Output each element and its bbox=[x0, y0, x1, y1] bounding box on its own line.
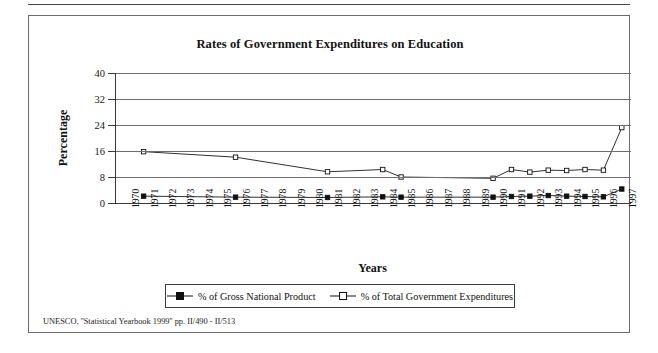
data-point-marker bbox=[528, 194, 532, 198]
y-axis-tick-label: 0 bbox=[100, 198, 105, 209]
y-axis-tick-label: 16 bbox=[95, 146, 106, 157]
data-point-marker bbox=[509, 194, 513, 198]
x-axis-tick-label: 1980 bbox=[314, 189, 325, 208]
gridline bbox=[116, 125, 631, 126]
x-axis-tick-label: 1978 bbox=[277, 189, 288, 208]
y-axis-tick bbox=[108, 151, 116, 152]
x-axis-tick-label: 1974 bbox=[203, 189, 214, 208]
x-axis-tick-label: 1986 bbox=[424, 189, 435, 208]
x-axis-tick-label: 1987 bbox=[442, 189, 453, 208]
data-point-marker bbox=[325, 170, 329, 174]
y-axis-tick bbox=[108, 99, 116, 100]
x-axis-tick-label: 1977 bbox=[259, 189, 270, 208]
x-axis-tick-label: 1994 bbox=[571, 189, 582, 208]
legend-filled-square-icon bbox=[167, 291, 193, 301]
data-point-marker bbox=[381, 167, 385, 171]
x-axis-tick-label: 1976 bbox=[240, 189, 251, 208]
data-point-marker bbox=[564, 194, 568, 198]
plot-area: 0816243240197019711972197319741975197619… bbox=[115, 73, 631, 204]
x-axis-tick-label: 1990 bbox=[498, 189, 509, 208]
y-axis-tick-label: 40 bbox=[95, 68, 106, 79]
data-point-marker bbox=[546, 168, 550, 172]
data-point-marker bbox=[564, 168, 568, 172]
x-axis-tick-label: 1995 bbox=[590, 189, 601, 208]
gridline bbox=[116, 99, 631, 100]
x-axis-tick-label: 1984 bbox=[387, 189, 398, 208]
chart-legend: % of Gross National Product% of Total Go… bbox=[165, 284, 515, 308]
data-point-marker bbox=[509, 167, 513, 171]
top-divider-rule bbox=[28, 4, 630, 5]
x-axis-tick-label: 1996 bbox=[608, 189, 619, 208]
x-axis-tick-label: 1991 bbox=[516, 189, 527, 208]
data-point-marker bbox=[233, 195, 237, 199]
legend-label: % of Total Government Expenditures bbox=[361, 291, 513, 302]
x-axis-tick-label: 1985 bbox=[406, 189, 417, 208]
data-point-marker bbox=[141, 194, 145, 198]
y-axis-tick bbox=[108, 177, 116, 178]
x-axis-tick-label: 1975 bbox=[222, 189, 233, 208]
x-axis-tick-label: 1992 bbox=[534, 189, 545, 208]
y-axis-tick bbox=[108, 125, 116, 126]
x-axis-title: Years bbox=[115, 261, 630, 276]
data-point-marker bbox=[528, 170, 532, 174]
legend-entry: % of Gross National Product bbox=[167, 291, 316, 302]
y-axis-tick-label: 24 bbox=[95, 120, 106, 131]
chart-frame: Rates of Government Expenditures on Educ… bbox=[28, 15, 630, 333]
gridline bbox=[116, 73, 631, 74]
y-axis-tick-label: 8 bbox=[100, 172, 105, 183]
x-axis-tick-label: 1970 bbox=[130, 189, 141, 208]
y-axis-title: Percentage bbox=[56, 110, 71, 166]
x-axis-tick-label: 1989 bbox=[479, 189, 490, 208]
data-point-marker bbox=[601, 195, 605, 199]
x-axis-tick-label: 1972 bbox=[167, 189, 178, 208]
data-point-marker bbox=[546, 193, 550, 197]
y-axis-tick-label: 32 bbox=[95, 94, 106, 105]
x-axis-tick-label: 1988 bbox=[461, 189, 472, 208]
y-axis-tick bbox=[108, 203, 116, 204]
y-axis-tick bbox=[108, 73, 116, 74]
data-point-marker bbox=[583, 167, 587, 171]
legend-label: % of Gross National Product bbox=[198, 291, 316, 302]
data-point-marker bbox=[325, 195, 329, 199]
gridline bbox=[116, 177, 631, 178]
data-point-marker bbox=[491, 195, 495, 199]
x-axis-tick-label: 1979 bbox=[295, 189, 306, 208]
x-axis-tick-label: 1973 bbox=[185, 189, 196, 208]
legend-entry: % of Total Government Expenditures bbox=[330, 291, 513, 302]
x-axis-tick-label: 1993 bbox=[553, 189, 564, 208]
x-axis-tick-label: 1981 bbox=[332, 189, 343, 208]
data-point-marker bbox=[583, 194, 587, 198]
data-point-marker bbox=[399, 195, 403, 199]
x-axis-tick-label: 1982 bbox=[351, 189, 362, 208]
data-point-marker bbox=[620, 125, 624, 129]
x-axis-tick-label: 1971 bbox=[148, 189, 159, 208]
x-axis-tick-label: 1997 bbox=[626, 189, 637, 208]
gridline bbox=[116, 151, 631, 152]
data-point-marker bbox=[601, 168, 605, 172]
legend-open-square-icon bbox=[330, 291, 356, 301]
source-citation: UNESCO, ''Statistical Yearbook 1999'' pp… bbox=[43, 317, 235, 326]
data-point-marker bbox=[233, 155, 237, 159]
series-overlay bbox=[116, 73, 631, 203]
x-axis-tick-label: 1983 bbox=[369, 189, 380, 208]
data-point-marker bbox=[381, 195, 385, 199]
data-point-marker bbox=[620, 187, 624, 191]
